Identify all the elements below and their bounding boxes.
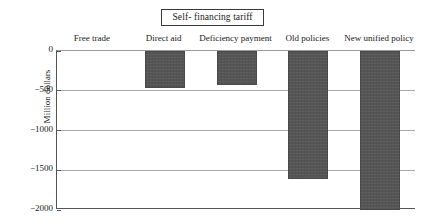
y-tick-label: 0 <box>49 45 54 54</box>
bar <box>217 51 257 85</box>
y-tick-label: −1500 <box>30 164 53 173</box>
y-tick-label: −1000 <box>30 125 53 134</box>
category-label: New unified policy <box>319 34 424 43</box>
y-tick-mark <box>57 51 61 52</box>
y-tick-mark <box>57 90 61 91</box>
bar <box>360 51 400 210</box>
y-tick-mark <box>57 210 61 211</box>
y-tick-label: −500 <box>34 85 53 94</box>
chart-title: Self- financing tariff <box>172 13 252 23</box>
bar <box>145 51 185 88</box>
chart-figure: Self- financing tariff Million dollars F… <box>0 0 424 224</box>
chart-title-box: Self- financing tariff <box>161 9 264 26</box>
plot-area: Total annual cost to EC consumers <box>56 50 415 209</box>
y-tick-mark <box>57 130 61 131</box>
y-axis-title: Million dollars <box>43 42 52 152</box>
y-tick-mark <box>57 170 61 171</box>
bar <box>288 51 328 179</box>
y-tick-label: −2000 <box>30 204 53 213</box>
